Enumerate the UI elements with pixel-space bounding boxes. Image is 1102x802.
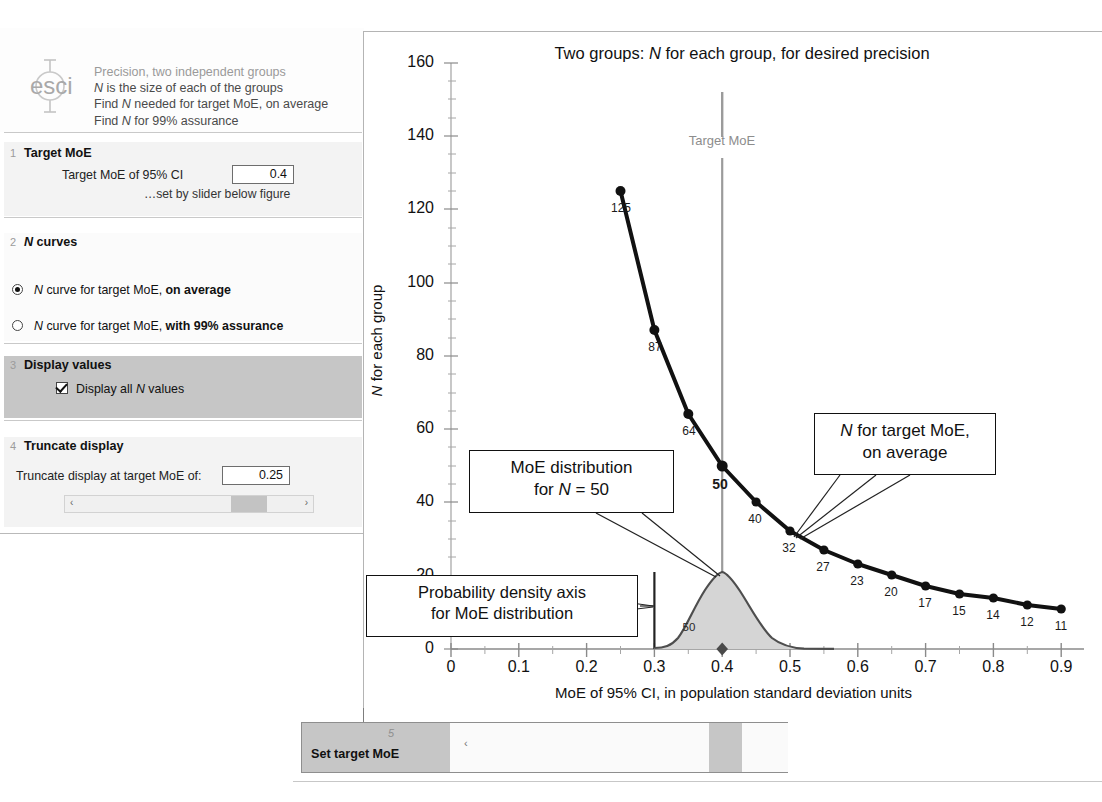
section-1-number: 1: [10, 147, 24, 159]
truncate-slider-right-arrow[interactable]: ›: [305, 497, 308, 508]
point-label-15: 15: [941, 604, 977, 618]
divider-2: [4, 217, 362, 218]
target-moe-slider[interactable]: ‹: [450, 723, 788, 772]
callout-n-line2: on average: [825, 442, 985, 464]
y-tick-60: 60: [388, 419, 434, 437]
x-tick-0.5: 0.5: [767, 658, 813, 676]
y-tick-100: 100: [388, 273, 434, 291]
point-label-50: 50: [702, 476, 738, 492]
section-3-label: Display values: [24, 358, 112, 372]
radio-on-average-icon[interactable]: [12, 284, 23, 295]
x-tick-0.3: 0.3: [631, 658, 677, 676]
truncate-slider[interactable]: ‹ ›: [64, 495, 314, 513]
x-tick-0.9: 0.9: [1038, 658, 1084, 676]
chart-title: Two groups: N for each group, for desire…: [462, 44, 1022, 63]
header-line-4: Find N for 99% assurance: [94, 113, 362, 129]
app-root: esci Precision, two independent groups N…: [0, 0, 1102, 802]
radio-on-average-bold: on average: [166, 283, 231, 297]
x-tick-0: 0: [428, 658, 474, 676]
divider-1: [4, 132, 362, 133]
divider-4: [4, 420, 362, 421]
section-4-label: Truncate display: [24, 439, 123, 453]
control-panel: esci Precision, two independent groups N…: [0, 0, 364, 534]
section-1-label: Target MoE: [24, 146, 92, 160]
truncate-slider-thumb[interactable]: [231, 496, 267, 512]
callout-moe-line2: for N = 50: [480, 479, 663, 501]
checkbox-icon[interactable]: [56, 382, 68, 394]
header-line-1: Precision, two independent groups: [94, 64, 362, 80]
point-label-14: 14: [975, 608, 1011, 622]
truncate-slider-left-arrow[interactable]: ‹: [70, 497, 73, 508]
header-description: Precision, two independent groups N is t…: [94, 64, 362, 129]
x-tick-0.6: 0.6: [835, 658, 881, 676]
point-label-32: 32: [771, 541, 807, 555]
point-label-20: 20: [873, 585, 909, 599]
x-tick-0.1: 0.1: [496, 658, 542, 676]
radio-n-curve-on-average[interactable]: N curve for target MoE, on average: [34, 283, 231, 297]
section-3-number: 3: [10, 359, 24, 371]
set-target-moe-panel: 5 Set target MoE ‹: [301, 722, 788, 773]
y-tick-160: 160: [388, 53, 434, 71]
y-axis-label: N for each group: [368, 211, 385, 471]
section-2-label: N: [24, 235, 33, 249]
section-1-title: 1Target MoE: [10, 146, 92, 160]
panel-bottom-divider: [0, 533, 364, 534]
radio-n-curve-assurance[interactable]: N curve for target MoE, with 99% assuran…: [34, 319, 283, 333]
point-label-11: 11: [1043, 619, 1079, 633]
truncate-input[interactable]: 0.25: [222, 466, 290, 485]
callout-probability-density-axis: Probability density axis for MoE distrib…: [366, 575, 638, 637]
section-5-title: Set target MoE: [311, 747, 399, 761]
target-moe-input[interactable]: 0.4: [232, 165, 294, 184]
target-moe-hint: …set by slider below figure: [144, 187, 290, 201]
y-tick-140: 140: [388, 126, 434, 144]
header-line-3: Find N needed for target MoE, on average: [94, 96, 362, 112]
section-2-title: 2N curves: [10, 235, 77, 249]
section-3-title: 3Display values: [10, 358, 112, 372]
y-tick-40: 40: [388, 492, 434, 510]
section-truncate-display: 4Truncate display Truncate display at ta…: [4, 437, 362, 527]
y-tick-80: 80: [388, 346, 434, 364]
section-n-curves: 2N curves N curve for target MoE, on ave…: [4, 233, 362, 341]
y-tick-0: 0: [388, 639, 434, 657]
panel-connector: [363, 708, 364, 722]
divider-3: [4, 343, 362, 344]
target-moe-annotation: Target MoE: [662, 133, 782, 148]
truncate-label: Truncate display at target MoE of:: [16, 469, 202, 483]
x-tick-0.7: 0.7: [903, 658, 949, 676]
section-target-moe: 1Target MoE Target MoE of 95% CI 0.4 …se…: [4, 142, 362, 216]
point-label-87: 87: [637, 340, 673, 354]
chart-area: Two groups: N for each group, for desire…: [363, 31, 1102, 720]
set-target-moe-label-block: 5 Set target MoE: [302, 723, 450, 772]
callout-moe-line1: MoE distribution: [480, 457, 663, 479]
x-tick-0.8: 0.8: [970, 658, 1016, 676]
target-moe-slider-thumb[interactable]: [709, 723, 742, 772]
svg-text:esci: esci: [30, 72, 73, 99]
callout-pd-line1: Probability density axis: [377, 582, 627, 603]
checkbox-display-all-n[interactable]: Display all N values: [76, 382, 184, 396]
callout-pd-line2: for MoE distribution: [377, 603, 627, 624]
app-header: esci Precision, two independent groups N…: [0, 28, 364, 132]
section-5-number: 5: [388, 727, 394, 739]
radio-assurance-bold: with 99% assurance: [166, 319, 284, 333]
point-label-23: 23: [839, 574, 875, 588]
target-moe-slider-left-arrow[interactable]: ‹: [464, 737, 468, 749]
page-bottom-divider: [293, 781, 1102, 782]
x-axis-label: MoE of 95% CI, in population standard de…: [364, 684, 1102, 701]
point-label-64: 64: [671, 424, 707, 438]
section-2-number: 2: [10, 236, 24, 248]
callout-n-line1: N for target MoE,: [825, 420, 985, 442]
x-tick-0.2: 0.2: [564, 658, 610, 676]
callout-moe-distribution: MoE distribution for N = 50: [469, 450, 674, 513]
target-moe-label: Target MoE of 95% CI: [62, 168, 183, 182]
esci-logo-icon: esci: [24, 58, 92, 114]
distribution-label-50: 50: [674, 621, 704, 633]
y-tick-120: 120: [388, 199, 434, 217]
header-line-2: N is the size of each of the groups: [94, 80, 362, 96]
callout-n-for-target-moe: N for target MoE, on average: [814, 413, 996, 475]
point-label-17: 17: [907, 596, 943, 610]
radio-assurance-icon[interactable]: [12, 320, 23, 331]
section-4-number: 4: [10, 440, 24, 452]
x-tick-0.4: 0.4: [699, 658, 745, 676]
point-label-27: 27: [805, 560, 841, 574]
point-label-12: 12: [1009, 615, 1045, 629]
